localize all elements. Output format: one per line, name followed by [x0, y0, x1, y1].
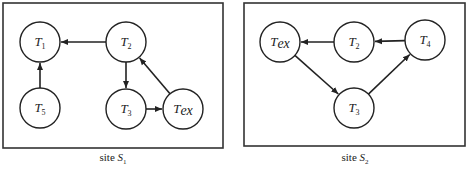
caption-site-s2: site S2	[305, 151, 405, 166]
wait-for-graph-figure: T1T2T5T3TexTexT2T4T3	[0, 0, 469, 169]
node-t2-site2: T2	[334, 22, 374, 62]
node-t4-site2: T4	[405, 20, 445, 60]
node-t5-site1: T5	[20, 88, 60, 128]
caption-site-subscript: 2	[365, 158, 369, 166]
node-label: Tex	[173, 101, 193, 118]
caption-prefix: site	[341, 151, 359, 163]
node-tex-site1: Tex	[163, 89, 203, 129]
edge-t3-to-t4-site2	[368, 55, 409, 95]
caption-site-s1: site S1	[63, 151, 163, 166]
edge-tex-to-t3-site2	[295, 55, 338, 94]
node-tex-site2: Tex	[260, 22, 300, 62]
caption-prefix: site	[99, 151, 117, 163]
caption-site-subscript: 1	[123, 158, 127, 166]
edge-t4-to-t2-site2	[375, 41, 405, 42]
node-t1-site1: T1	[20, 22, 60, 62]
node-t2-site1: T2	[106, 22, 146, 62]
edge-tex-to-t2-site1	[140, 58, 170, 94]
node-label: Tex	[270, 34, 290, 51]
node-t3-site1: T3	[106, 89, 146, 129]
node-t3-site2: T3	[334, 88, 374, 128]
